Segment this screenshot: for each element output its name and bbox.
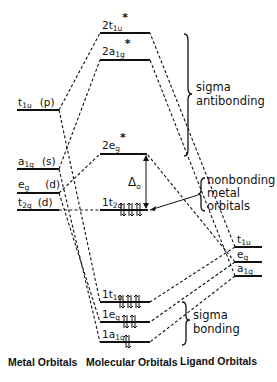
nonbonding-line2: metal <box>207 186 240 200</box>
mo-label-2a1g-star: 2a1g* <box>102 37 131 59</box>
metal-label-t2g: t2g(d) <box>18 196 53 210</box>
mo-label-2t1u-star: 2t1u* <box>102 11 128 33</box>
nonbonding-line3: orbitals <box>207 199 250 213</box>
metal-label-eg: eg(d) <box>18 178 60 192</box>
sigma-antibonding-line2: antibonding <box>196 94 265 108</box>
mo-diagram: t1u(p) a1g(s) eg(d) t2g(d) 2t1u* 2a1g* 2… <box>0 0 277 382</box>
nonbonding-line1: nonbonding <box>207 173 275 187</box>
ligand-label-t1u: t1u <box>237 233 251 247</box>
metal-orbitals-label: Metal Orbitals <box>8 356 78 368</box>
mo-label-1eg: 1eg <box>102 308 120 322</box>
delta-o-label: Δo <box>128 175 141 191</box>
ligand-label-a1g: a1g <box>237 262 253 276</box>
mo-label-2eg-star: 2eg* <box>102 131 126 153</box>
ligand-orbitals-label: Ligand Orbitals <box>180 355 257 367</box>
sigma-bonding-line2: bonding <box>193 322 240 336</box>
metal-label-a1g: a1g(s) <box>18 155 56 169</box>
delta-o-arrow: Δo <box>128 155 149 209</box>
sigma-bonding-line1: sigma <box>193 308 228 322</box>
molecular-orbitals: 2t1u* 2a1g* 2eg* 1t2g 1t1u 1eg <box>100 11 150 348</box>
molecular-orbitals-label: Molecular Orbitals <box>86 356 178 368</box>
sigma-bonding-annotation: sigma bonding <box>182 302 240 345</box>
ligand-orbitals: t1u eg a1g <box>235 233 262 276</box>
mo-label-1t2g: 1t2g <box>102 196 123 210</box>
ligand-label-eg: eg <box>237 248 248 262</box>
sigma-antibonding-line1: sigma <box>196 80 231 94</box>
sigma-antibonding-annotation: sigma antibonding <box>184 34 265 156</box>
metal-label-t1u: t1u(p) <box>18 96 55 110</box>
metal-orbitals: t1u(p) a1g(s) eg(d) t2g(d) <box>17 96 60 210</box>
mo-label-1a1g: 1a1g <box>102 328 125 342</box>
nonbonding-annotation: nonbonding metal orbitals <box>150 173 275 213</box>
column-labels: Metal Orbitals Molecular Orbitals Ligand… <box>8 355 257 368</box>
